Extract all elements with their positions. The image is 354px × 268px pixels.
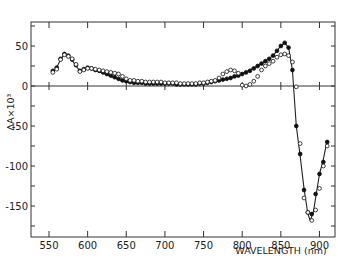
open-point	[252, 79, 256, 83]
filled-point	[318, 172, 322, 176]
open-point	[144, 80, 148, 84]
open-point	[86, 67, 90, 71]
open-point	[310, 219, 314, 223]
open-point	[140, 79, 144, 83]
filled-point	[121, 79, 125, 83]
open-point	[70, 57, 74, 61]
y-tick-label: -150	[5, 201, 28, 212]
filled-point	[221, 78, 225, 82]
open-point	[256, 75, 260, 79]
open-point	[175, 81, 179, 85]
filled-point	[252, 67, 256, 71]
open-point	[128, 79, 132, 83]
open-point	[271, 59, 275, 63]
y-tick-label: -100	[5, 161, 28, 172]
open-point	[105, 70, 109, 74]
data-points	[51, 41, 329, 222]
filled-point	[275, 49, 279, 53]
open-point	[163, 81, 167, 85]
open-point	[225, 70, 229, 74]
open-point	[190, 82, 194, 86]
open-point	[82, 68, 86, 72]
open-point	[209, 79, 213, 83]
x-tick-label: 750	[194, 240, 213, 251]
filled-point	[321, 160, 325, 164]
open-point	[244, 84, 248, 88]
open-point	[233, 69, 237, 73]
filled-point	[260, 62, 264, 66]
open-point	[294, 85, 298, 89]
open-point	[78, 70, 82, 74]
open-point	[229, 68, 233, 72]
open-point	[236, 71, 240, 75]
open-point	[291, 60, 295, 64]
open-point	[132, 79, 136, 83]
open-point	[287, 54, 291, 58]
y-tick-label: 50	[15, 41, 28, 52]
open-point	[155, 80, 159, 84]
open-point	[117, 72, 121, 76]
filled-point	[283, 41, 287, 45]
open-point	[240, 83, 244, 87]
open-point	[66, 55, 70, 59]
y-axis-title: ΔA×10³	[5, 93, 16, 130]
filled-point	[233, 75, 237, 79]
open-point	[206, 80, 210, 84]
open-point	[93, 67, 97, 71]
open-point	[151, 80, 155, 84]
open-point	[267, 62, 271, 66]
open-point	[275, 55, 279, 59]
open-point	[194, 82, 198, 86]
open-point	[101, 69, 105, 73]
filled-point	[310, 212, 314, 216]
open-point	[321, 164, 325, 168]
open-point	[314, 208, 318, 212]
open-point	[148, 80, 152, 84]
filled-point	[263, 59, 267, 63]
filled-point	[298, 152, 302, 156]
filled-point	[240, 72, 244, 76]
x-tick-label: 600	[78, 240, 97, 251]
open-point	[221, 72, 225, 76]
chart: 550600650700750800850900500-50-100-150 W…	[0, 0, 354, 268]
filled-point	[248, 69, 252, 73]
filled-point	[267, 57, 271, 61]
open-point	[302, 196, 306, 200]
filled-point	[279, 44, 283, 48]
open-point	[97, 68, 101, 72]
filled-point	[244, 71, 248, 75]
open-point	[283, 52, 287, 56]
open-point	[55, 67, 59, 71]
y-tick-label: 0	[22, 81, 28, 92]
filled-point	[113, 75, 117, 79]
open-point	[74, 63, 78, 67]
open-point	[63, 53, 67, 57]
filled-point	[294, 124, 298, 128]
open-point	[279, 53, 283, 57]
open-point	[159, 80, 163, 84]
open-point	[90, 67, 94, 71]
x-tick-label: 550	[39, 240, 58, 251]
open-point	[182, 82, 186, 86]
x-tick-label: 700	[155, 240, 174, 251]
filled-point	[225, 77, 229, 81]
filled-point	[287, 46, 291, 50]
open-point	[202, 81, 206, 85]
open-point	[59, 58, 63, 62]
open-point	[51, 71, 55, 75]
open-point	[171, 81, 175, 85]
open-point	[178, 82, 182, 86]
filled-point	[271, 54, 275, 58]
x-axis-title: WAVELENGTH (nm)	[235, 245, 326, 256]
open-point	[248, 83, 252, 87]
open-point	[298, 142, 302, 146]
open-point	[121, 75, 125, 79]
filled-point	[229, 76, 233, 80]
open-point	[109, 71, 113, 75]
filled-point	[291, 68, 295, 72]
filled-point	[117, 77, 121, 81]
filled-point	[256, 64, 260, 68]
open-point	[325, 144, 329, 148]
x-tick-label: 650	[117, 240, 136, 251]
filled-point	[302, 188, 306, 192]
